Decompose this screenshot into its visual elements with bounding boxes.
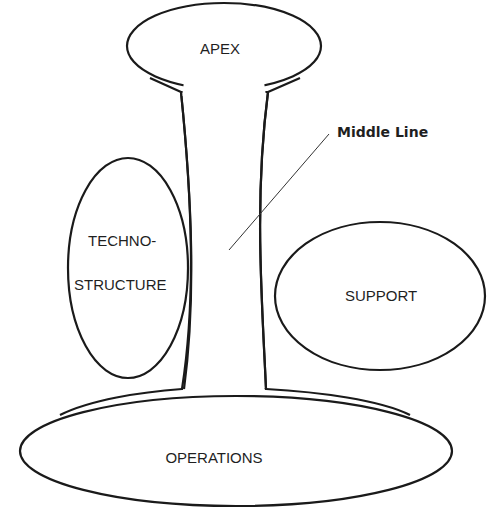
trunk-bottom-mask — [182, 386, 266, 394]
technostructure-shape — [68, 158, 188, 378]
support-label: SUPPORT — [345, 287, 417, 304]
trunk-right-edge — [260, 78, 300, 389]
operations-label: OPERATIONS — [165, 449, 262, 466]
apex-label: APEX — [200, 40, 240, 57]
middle-line-label: Middle Line — [337, 124, 428, 140]
organization-diagram: APEX Middle Line TECHNO- STRUCTURE SUPPO… — [0, 0, 488, 513]
middle-line-shape — [181, 92, 268, 389]
technostructure-label-line1: TECHNO- — [88, 232, 156, 249]
technostructure-label-line2: STRUCTURE — [74, 276, 167, 293]
apex-neck-mask — [182, 82, 266, 96]
